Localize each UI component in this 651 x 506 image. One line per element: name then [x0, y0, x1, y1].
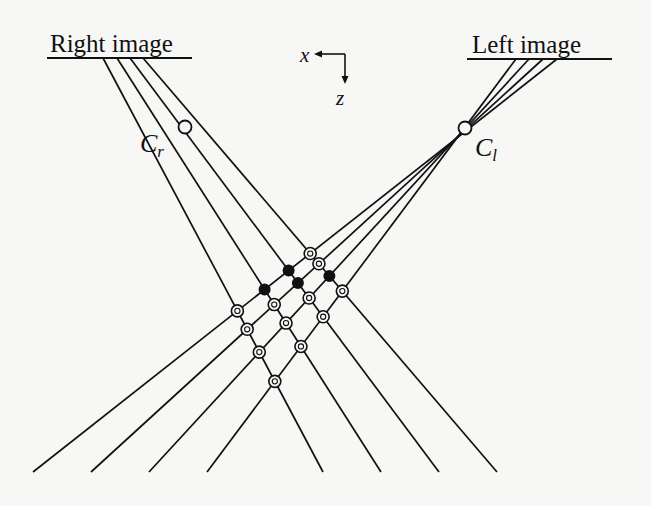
x-arrow-icon: [314, 51, 322, 58]
false-match-marker: [303, 292, 315, 304]
right-camera-ray: [130, 58, 439, 472]
geometry-canvas: [0, 0, 651, 506]
false-match-marker: [336, 285, 348, 297]
true-match-dot: [292, 277, 304, 289]
left-camera-label: Cl: [475, 135, 497, 169]
x-axis-label: x: [300, 45, 309, 66]
false-match-marker: [241, 323, 253, 335]
left-camera-center-icon: [459, 122, 472, 135]
false-match-marker: [231, 305, 243, 317]
true-match-dot: [259, 283, 271, 295]
false-match-marker: [268, 299, 280, 311]
left-camera-ray: [207, 59, 516, 472]
false-match-marker: [317, 311, 329, 323]
false-match-marker: [253, 346, 265, 358]
false-match-marker: [269, 375, 281, 387]
false-match-marker: [304, 248, 316, 260]
false-match-marker: [295, 340, 307, 352]
left-camera-ray: [33, 59, 557, 472]
true-match-dot: [323, 270, 335, 282]
right-camera-label: Cr: [140, 131, 164, 165]
right-camera-ray: [117, 58, 381, 472]
left-camera-ray: [149, 59, 529, 472]
false-match-marker: [313, 258, 325, 270]
right-camera-center-icon: [179, 121, 192, 134]
left-image-label: Left image: [472, 32, 581, 57]
right-image-label: Right image: [50, 31, 173, 56]
false-match-marker: [280, 317, 292, 329]
z-axis-label: z: [336, 88, 344, 109]
true-match-dot: [283, 265, 295, 277]
z-arrow-icon: [342, 76, 349, 84]
stereo-diagram: Right image Left image Cr Cl x z: [0, 0, 651, 506]
